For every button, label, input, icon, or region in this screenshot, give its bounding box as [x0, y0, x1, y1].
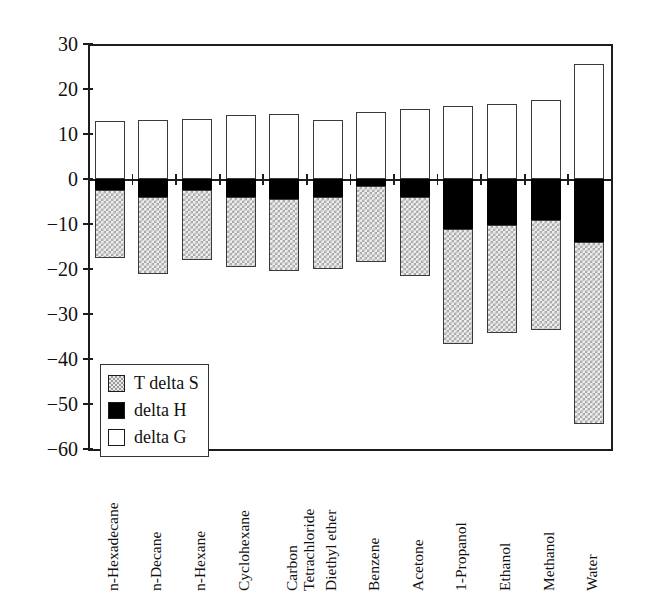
x-category-label-line: Water — [583, 554, 600, 591]
y-tick-label: −60 — [10, 439, 78, 459]
x-category-label: 1-Propanol — [452, 522, 469, 591]
bar-segment-t-delta-s — [487, 225, 517, 333]
y-tick-label: −10 — [10, 214, 78, 234]
y-tick-mark — [83, 268, 93, 270]
y-tick-label: 10 — [10, 124, 78, 144]
bar-segment-delta-g — [269, 114, 299, 179]
y-tick-label: 0 — [10, 169, 78, 189]
legend-item: T delta S — [108, 370, 199, 397]
x-category-label-line: 1-Propanol — [452, 522, 469, 591]
legend-swatch-delta-h-icon — [108, 402, 125, 419]
bar-segment-delta-g — [356, 112, 386, 180]
x-tick-mark — [350, 174, 352, 185]
bar-group — [531, 44, 561, 449]
x-category-label-line: Carbon — [283, 509, 300, 591]
bar-segment-delta-h — [487, 179, 517, 225]
y-tick-mark — [83, 133, 93, 135]
x-tick-mark — [132, 174, 134, 185]
legend-item: delta G — [108, 424, 199, 451]
x-tick-mark — [567, 174, 569, 185]
bar-segment-t-delta-s — [95, 190, 125, 258]
x-category-label: Ethanol — [496, 543, 513, 591]
x-tick-mark — [524, 174, 526, 185]
bar-segment-delta-h — [400, 179, 430, 197]
chart-legend: T delta S delta H delta G — [100, 364, 209, 457]
x-category-label: Acetone — [409, 539, 426, 591]
plot-right-border — [611, 44, 613, 451]
bar-segment-delta-h — [95, 179, 125, 190]
x-category-label: n-Hexadecane — [104, 502, 121, 591]
x-category-label: CarbonTetrachloride — [283, 509, 317, 591]
x-tick-mark — [393, 174, 395, 185]
x-category-label: n-Hexane — [191, 531, 208, 591]
bar-segment-delta-h — [356, 179, 386, 186]
bar-segment-t-delta-s — [443, 229, 473, 344]
x-category-label-line: n-Hexadecane — [104, 502, 121, 591]
bar-group — [443, 44, 473, 449]
x-category-label-line: Diethyl ether — [322, 510, 339, 591]
bar-group — [574, 44, 604, 449]
x-category-label: Methanol — [540, 532, 557, 591]
bar-group — [356, 44, 386, 449]
bar-segment-delta-g — [313, 120, 343, 179]
bar-segment-t-delta-s — [574, 242, 604, 424]
x-category-label: Benzene — [365, 538, 382, 591]
bar-segment-t-delta-s — [313, 197, 343, 269]
y-tick-label: −30 — [10, 304, 78, 324]
x-category-label-line: Cyclohexane — [235, 510, 252, 591]
thermodynamics-bar-chart: 3020100−10−20−30−40−50−60 n-Hexadecanen-… — [0, 0, 648, 596]
x-tick-mark — [262, 174, 264, 185]
legend-label: delta G — [134, 428, 186, 446]
legend-swatch-t-delta-s-icon — [108, 375, 125, 392]
x-category-label-line: Ethanol — [496, 543, 513, 591]
bar-segment-delta-h — [226, 179, 256, 197]
bar-segment-delta-g — [487, 104, 517, 179]
bar-segment-t-delta-s — [138, 197, 168, 274]
y-axis-line — [88, 44, 90, 451]
bar-group — [226, 44, 256, 449]
x-category-label-line: Methanol — [540, 532, 557, 591]
y-tick-label: −40 — [10, 349, 78, 369]
bar-segment-t-delta-s — [226, 197, 256, 267]
bar-segment-delta-h — [182, 179, 212, 190]
x-category-label-line: Tetrachloride — [300, 509, 317, 591]
x-category-label-line: n-Decane — [147, 532, 164, 591]
bar-group — [313, 44, 343, 449]
legend-label: T delta S — [134, 374, 199, 392]
y-tick-mark — [83, 448, 93, 450]
y-tick-label: −50 — [10, 394, 78, 414]
legend-swatch-delta-g-icon — [108, 429, 125, 446]
legend-label: delta H — [134, 401, 186, 419]
bar-segment-delta-g — [574, 64, 604, 179]
bar-segment-t-delta-s — [531, 220, 561, 330]
y-tick-mark — [83, 403, 93, 405]
bar-group — [269, 44, 299, 449]
x-category-label: Water — [583, 554, 600, 591]
x-category-label: Diethyl ether — [322, 510, 339, 591]
x-tick-mark — [175, 174, 177, 185]
bar-segment-t-delta-s — [269, 199, 299, 271]
bar-segment-t-delta-s — [400, 197, 430, 276]
bar-segment-delta-h — [313, 179, 343, 197]
legend-item: delta H — [108, 397, 199, 424]
x-tick-mark — [219, 174, 221, 185]
x-tick-mark — [88, 174, 90, 185]
bar-segment-delta-h — [138, 179, 168, 197]
bar-segment-delta-g — [531, 100, 561, 179]
y-tick-label: 20 — [10, 79, 78, 99]
x-tick-mark — [306, 174, 308, 185]
bar-segment-t-delta-s — [356, 186, 386, 263]
bar-group — [487, 44, 517, 449]
x-tick-mark — [437, 174, 439, 185]
bar-segment-delta-g — [138, 120, 168, 179]
bar-segment-delta-g — [226, 115, 256, 179]
x-category-label-line: Acetone — [409, 539, 426, 591]
x-category-label: n-Decane — [147, 532, 164, 591]
bar-segment-delta-g — [443, 106, 473, 179]
bar-segment-delta-h — [531, 179, 561, 220]
y-tick-label: 30 — [10, 34, 78, 54]
bar-segment-delta-h — [574, 179, 604, 242]
x-category-label-line: Benzene — [365, 538, 382, 591]
bar-segment-t-delta-s — [182, 190, 212, 260]
bar-segment-delta-h — [443, 179, 473, 229]
